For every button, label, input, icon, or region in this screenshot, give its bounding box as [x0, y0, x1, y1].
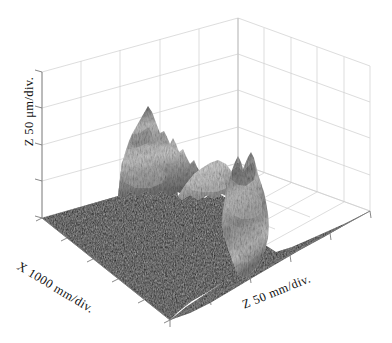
surface-plot-figure: Z 50 μm/div. X 1000 mm/div. Z 50 mm/div. — [0, 0, 392, 343]
z-vertical-axis-label: Z 50 μm/div. — [22, 64, 37, 160]
